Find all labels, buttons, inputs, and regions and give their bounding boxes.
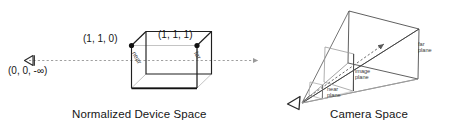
image-plane-quad	[324, 47, 354, 91]
nds-corner-dot-far	[194, 43, 199, 48]
caption-camera-space: Camera Space	[330, 108, 408, 120]
nds-eye-origin-label: (0, 0, -∞)	[8, 65, 47, 76]
nds-corner-label-110: (1, 1, 0)	[83, 33, 117, 44]
camera-view-ray	[303, 44, 384, 101]
caption-normalized-device-space: Normalized Device Space	[72, 108, 207, 120]
camera-far-plane-label: far plane	[418, 41, 432, 54]
frustum-bottom-guides	[302, 79, 418, 103]
camera-image-plane-label: image plane	[355, 68, 370, 81]
camera-far-plane-label-line2: plane	[418, 47, 432, 53]
nds-corner-label-111: (1, 1, 1)	[158, 29, 192, 40]
nds-corner-dot-near	[129, 43, 134, 48]
nds-box-back-face	[132, 46, 198, 89]
eye-triangle-icon-camera	[288, 97, 301, 110]
camera-near-plane-label: near plane	[327, 86, 341, 99]
frustum-diagonal-edge	[302, 29, 419, 103]
figure-root: (0, 0, -∞) (1, 1, 0) (1, 1, 1) near far …	[0, 0, 456, 134]
camera-space-frustum	[288, 11, 420, 110]
camera-near-plane-label-line2: plane	[327, 92, 341, 98]
camera-image-plane-label-line2: plane	[355, 74, 370, 80]
